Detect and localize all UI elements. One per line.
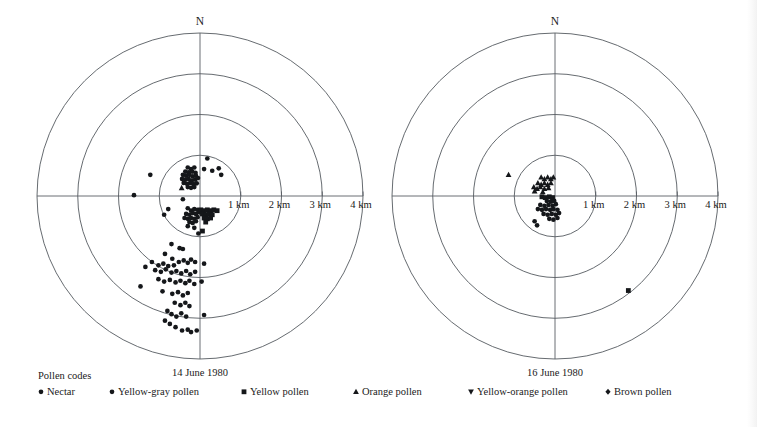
data-point-circle — [167, 322, 172, 327]
data-point-circle — [553, 202, 558, 207]
plot-date-label: 16 June 1980 — [527, 367, 583, 378]
legend-item-triangle-up: Orange pollen — [353, 386, 422, 397]
data-point-circle — [161, 261, 166, 266]
data-point-circle — [173, 325, 178, 330]
data-point-circle — [196, 176, 201, 181]
data-point-circle — [178, 303, 183, 308]
plot-date-label: 14 June 1980 — [172, 367, 228, 378]
data-point-circle — [179, 271, 184, 276]
data-point-circle — [176, 290, 181, 295]
data-point-circle — [173, 280, 178, 285]
data-point-circle — [551, 207, 556, 212]
data-point-circle — [192, 282, 197, 287]
data-point-circle — [187, 304, 192, 309]
data-point-circle — [163, 252, 168, 257]
data-point-circle — [174, 314, 179, 319]
ring-label-1km: 1 km — [228, 199, 249, 210]
legend-item-circle: Nectar — [39, 386, 76, 397]
data-point-square — [200, 229, 205, 234]
data-point-circle — [532, 219, 537, 224]
data-points-group — [132, 156, 224, 334]
data-point-square — [208, 216, 213, 221]
data-point-circle — [156, 277, 161, 282]
data-point-triangle-up — [179, 185, 185, 190]
ring-label-2km: 2 km — [269, 199, 290, 210]
data-point-triangle-down — [468, 390, 474, 395]
data-point-circle — [156, 263, 161, 268]
data-point-circle — [39, 389, 44, 394]
ring-label-3km: 3 km — [665, 199, 686, 210]
data-point-circle — [181, 258, 186, 263]
data-point-circle — [169, 242, 174, 247]
data-point-circle — [219, 172, 224, 177]
data-point-circle — [162, 279, 167, 284]
data-point-diamond — [605, 389, 610, 395]
ring-label-2km: 2 km — [624, 199, 645, 210]
data-point-circle — [185, 291, 190, 296]
legend-label: Yellow pollen — [250, 386, 309, 397]
ring-label-1km: 1 km — [583, 199, 604, 210]
data-point-circle — [555, 216, 560, 221]
data-point-circle — [540, 208, 545, 213]
data-point-circle — [179, 311, 184, 316]
data-point-circle — [210, 168, 215, 173]
data-point-circle — [138, 284, 143, 289]
data-point-circle — [545, 199, 550, 204]
data-point-circle — [535, 223, 540, 228]
data-point-circle — [181, 293, 186, 298]
data-point-circle — [194, 328, 199, 333]
data-point-circle — [143, 265, 148, 270]
data-point-triangle-up — [353, 389, 359, 394]
data-point-circle — [184, 314, 189, 319]
data-point-circle — [551, 217, 556, 222]
data-point-circle — [196, 231, 201, 236]
ring-label-4km: 4 km — [705, 199, 726, 210]
data-point-circle — [202, 313, 207, 318]
data-point-circle — [167, 278, 172, 283]
data-point-circle — [159, 269, 164, 274]
data-point-circle — [174, 269, 179, 274]
data-point-circle — [546, 203, 551, 208]
data-point-circle — [165, 309, 170, 314]
polar-plot-1: 1 km2 km3 km4 kmN14 June 1980 — [37, 15, 372, 378]
data-point-circle — [202, 261, 207, 266]
data-point-circle — [547, 216, 552, 221]
data-point-circle — [205, 156, 210, 161]
data-point-circle — [549, 212, 554, 217]
data-point-circle — [181, 197, 186, 202]
data-point-square — [626, 288, 631, 293]
data-point-square — [242, 389, 247, 394]
data-point-square — [203, 220, 208, 225]
data-point-circle — [545, 212, 550, 217]
data-point-circle — [162, 212, 167, 217]
data-point-circle — [180, 328, 185, 333]
data-point-circle — [189, 257, 194, 262]
data-point-circle — [150, 260, 155, 265]
data-point-circle — [184, 269, 189, 274]
data-point-circle — [185, 224, 190, 229]
data-point-square — [215, 208, 220, 213]
ring-label-4km: 4 km — [350, 199, 371, 210]
legend-label: Nectar — [47, 386, 75, 397]
data-point-circle — [188, 272, 193, 277]
data-point-circle — [183, 281, 188, 286]
data-points-group — [506, 172, 631, 293]
data-point-circle — [216, 166, 221, 171]
data-point-circle — [193, 269, 198, 274]
data-point-circle — [110, 389, 115, 394]
data-point-circle — [193, 260, 198, 265]
data-point-circle — [202, 167, 207, 172]
legend-label: Orange pollen — [362, 386, 423, 397]
data-point-circle — [183, 300, 188, 305]
data-point-circle — [132, 193, 137, 198]
legend-label: Yellow-gray pollen — [118, 386, 200, 397]
legend-label: Brown pollen — [614, 386, 672, 397]
data-point-circle — [153, 268, 158, 273]
data-point-circle — [541, 212, 546, 217]
data-point-triangle-up — [506, 172, 512, 177]
legend-item-diamond: Brown pollen — [605, 386, 672, 397]
data-point-circle — [169, 312, 174, 317]
legend-label: Yellow-orange pollen — [477, 386, 569, 397]
data-point-circle — [194, 219, 199, 224]
data-point-circle — [181, 247, 186, 252]
